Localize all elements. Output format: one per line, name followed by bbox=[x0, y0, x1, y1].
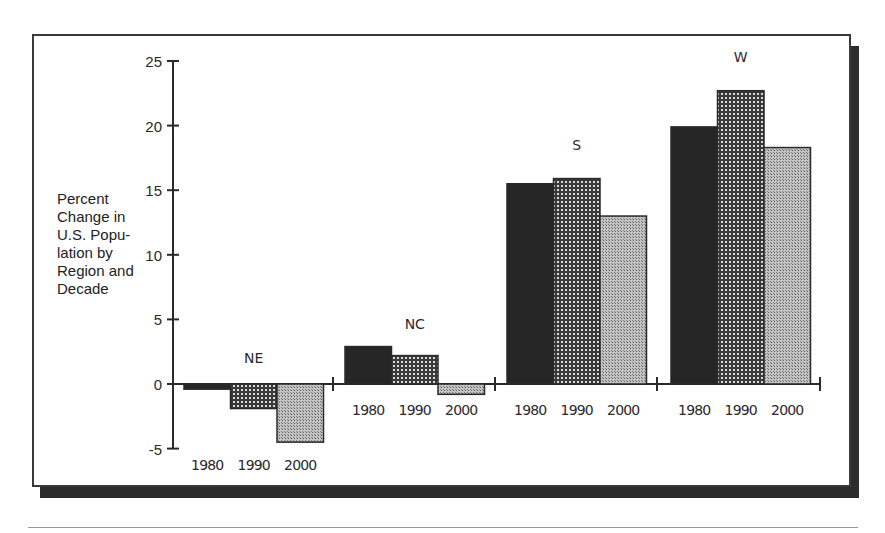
bar-w-2000 bbox=[764, 148, 811, 384]
year-label: 2000 bbox=[607, 402, 639, 418]
y-tick-label: -5 bbox=[149, 441, 162, 458]
bar-s-1980 bbox=[507, 184, 554, 384]
y-axis: -50510152025 bbox=[145, 53, 179, 458]
bar-ne-2000 bbox=[277, 384, 324, 442]
bar-chart: -50510152025 198019902000NE198019902000N… bbox=[0, 0, 885, 533]
region-label-w: W bbox=[734, 49, 748, 65]
y-tick-label: 5 bbox=[154, 311, 162, 328]
year-label: 1980 bbox=[191, 457, 223, 473]
y-tick-label: 25 bbox=[145, 53, 162, 70]
bar-s-1990 bbox=[554, 179, 601, 384]
y-tick-label: 20 bbox=[145, 118, 162, 135]
year-label: 1990 bbox=[561, 402, 593, 418]
bar-w-1990 bbox=[718, 91, 765, 384]
bar-nc-1990 bbox=[392, 356, 439, 384]
year-label: 1990 bbox=[238, 457, 270, 473]
bar-nc-1980 bbox=[345, 347, 392, 384]
bar-w-1980 bbox=[671, 127, 718, 384]
year-label: 1980 bbox=[352, 402, 384, 418]
year-label: 2000 bbox=[445, 402, 477, 418]
region-label-ne: NE bbox=[244, 350, 263, 366]
year-label: 1990 bbox=[399, 402, 431, 418]
bar-ne-1990 bbox=[231, 384, 278, 409]
bar-ne-1980 bbox=[184, 384, 231, 389]
region-label-nc: NC bbox=[405, 316, 425, 332]
region-label-s: S bbox=[572, 137, 581, 153]
y-tick-label: 10 bbox=[145, 247, 162, 264]
bar-s-2000 bbox=[600, 216, 647, 384]
year-label: 2000 bbox=[771, 402, 803, 418]
year-label: 1990 bbox=[725, 402, 757, 418]
y-tick-label: 0 bbox=[154, 376, 162, 393]
year-label: 2000 bbox=[284, 457, 316, 473]
y-tick-label: 15 bbox=[145, 182, 162, 199]
year-label: 1980 bbox=[678, 402, 710, 418]
year-label: 1980 bbox=[514, 402, 546, 418]
bars-layer bbox=[184, 91, 811, 442]
bar-nc-2000 bbox=[438, 384, 485, 394]
